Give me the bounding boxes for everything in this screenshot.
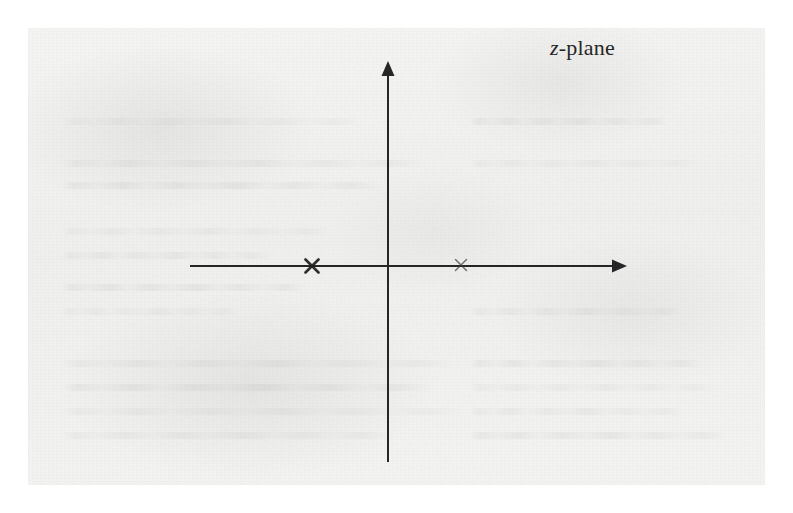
scanned-page-surface xyxy=(28,28,765,485)
ghost-text-line xyxy=(62,360,454,367)
figure-root: z-plane xyxy=(0,0,793,513)
z-plane-label-symbol: z xyxy=(550,35,559,60)
ghost-text-line xyxy=(470,408,684,415)
ghost-text-line xyxy=(62,284,306,291)
ghost-text-line xyxy=(62,182,380,189)
z-plane-label: z-plane xyxy=(550,36,615,60)
ghost-text-line xyxy=(470,118,670,125)
ghost-text-line xyxy=(62,160,422,167)
ghost-text-line xyxy=(470,384,718,391)
ghost-text-line xyxy=(62,252,270,259)
ghost-text-line xyxy=(470,160,696,167)
ghost-text-line xyxy=(470,308,682,315)
paper-grain-texture xyxy=(28,28,765,485)
ghost-text-line xyxy=(62,432,392,439)
ghost-text-line xyxy=(62,408,466,415)
z-plane-label-suffix: -plane xyxy=(559,35,615,60)
ghost-text-line xyxy=(62,308,238,315)
ghost-text-line xyxy=(62,384,430,391)
ghost-text-line xyxy=(62,228,330,235)
ghost-text-line xyxy=(470,360,702,367)
ghost-text-line xyxy=(470,432,726,439)
ghost-text-line xyxy=(62,118,362,125)
